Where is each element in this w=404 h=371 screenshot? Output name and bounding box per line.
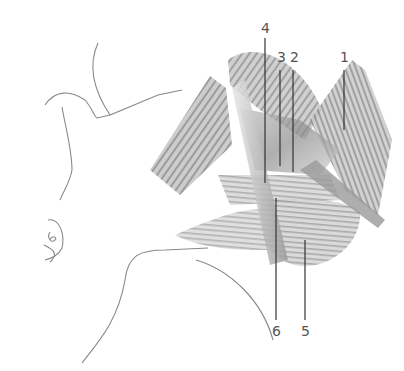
label-2: 2 <box>290 50 299 64</box>
label-1: 1 <box>340 50 349 64</box>
label-5: 5 <box>301 324 310 338</box>
label-4: 4 <box>261 21 270 35</box>
label-3: 3 <box>277 50 286 64</box>
muscle-group <box>150 52 392 266</box>
label-6: 6 <box>272 324 281 338</box>
anatomy-figure: 1 2 3 4 5 6 <box>0 0 404 371</box>
